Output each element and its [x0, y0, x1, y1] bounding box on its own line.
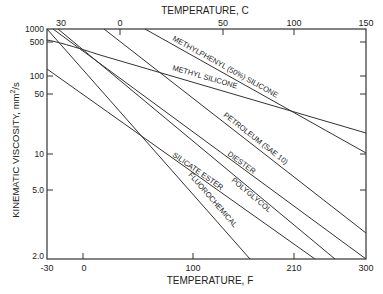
y-axis-ticks: 1000 500 100 50 10 5.0 2.0 [25, 24, 53, 261]
x2-tick-label: 0 [117, 18, 122, 28]
y-tick-label: 2.0 [32, 251, 44, 261]
y-tick-label: 500 [30, 37, 44, 47]
x-tick-label: 0 [81, 263, 86, 273]
x-tick-label: 210 [286, 263, 301, 273]
label-polyglycol: POLYGLYCOL [230, 176, 274, 215]
x2-tick-label: 50 [218, 18, 228, 28]
x-tick-label: -30 [40, 263, 53, 273]
viscosity-temperature-chart: TEMPERATURE, C 30 0 50 100 150 1000 500 … [0, 0, 383, 294]
y-tick-label: 5.0 [32, 185, 44, 195]
y-axis-title: KINEMATIC VISCOSITY, mm2/s [9, 82, 21, 218]
x2-tick-label: 150 [358, 18, 373, 28]
x2-tick-label: 30 [56, 18, 66, 28]
y-tick-label: 50 [35, 89, 45, 99]
line-polyglycol [58, 29, 335, 259]
right-axis-ticks [360, 42, 366, 190]
bottom-axis-title: TEMPERATURE, F [167, 275, 253, 286]
series-lines [47, 29, 366, 259]
x-tick-label: 100 [185, 263, 200, 273]
y-tick-label: 1000 [25, 24, 44, 34]
y-tick-label: 10 [35, 149, 45, 159]
x-axis-ticks: -30 0 100 210 300 [40, 253, 373, 273]
y-tick-label: 100 [30, 71, 44, 81]
top-axis-title: TEMPERATURE, C [161, 5, 249, 16]
series-labels: METHYLPHENYL (50%) SILICONE METHYL SILIC… [171, 34, 290, 229]
top-axis-ticks: 30 0 50 100 150 [56, 18, 374, 35]
x2-tick-label: 100 [286, 18, 301, 28]
x-tick-label: 300 [358, 263, 373, 273]
